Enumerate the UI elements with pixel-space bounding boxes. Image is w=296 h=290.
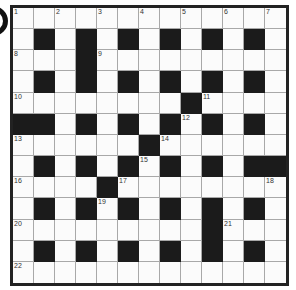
- grid-cell[interactable]: 11: [202, 93, 223, 114]
- grid-cell[interactable]: [13, 71, 34, 92]
- grid-cell[interactable]: [265, 50, 286, 71]
- grid-cell[interactable]: [55, 241, 76, 262]
- grid-cell[interactable]: [13, 29, 34, 50]
- grid-cell[interactable]: 18: [265, 177, 286, 198]
- grid-cell[interactable]: [160, 93, 181, 114]
- grid-cell[interactable]: [55, 93, 76, 114]
- grid-cell[interactable]: [118, 220, 139, 241]
- grid-cell[interactable]: [97, 262, 118, 283]
- grid-cell[interactable]: 3: [97, 8, 118, 29]
- grid-cell[interactable]: [181, 241, 202, 262]
- grid-cell[interactable]: [118, 93, 139, 114]
- grid-cell[interactable]: [223, 29, 244, 50]
- grid-cell[interactable]: [202, 50, 223, 71]
- grid-cell[interactable]: 7: [265, 8, 286, 29]
- grid-cell[interactable]: 4: [139, 8, 160, 29]
- grid-cell[interactable]: [160, 8, 181, 29]
- grid-cell[interactable]: [13, 156, 34, 177]
- grid-cell[interactable]: [34, 262, 55, 283]
- grid-cell[interactable]: [55, 135, 76, 156]
- grid-cell[interactable]: [97, 241, 118, 262]
- grid-cell[interactable]: [118, 262, 139, 283]
- grid-cell[interactable]: [265, 220, 286, 241]
- grid-cell[interactable]: [223, 114, 244, 135]
- grid-cell[interactable]: [223, 135, 244, 156]
- grid-cell[interactable]: [202, 135, 223, 156]
- grid-cell[interactable]: [34, 177, 55, 198]
- grid-cell[interactable]: [160, 50, 181, 71]
- grid-cell[interactable]: 20: [13, 220, 34, 241]
- grid-cell[interactable]: [139, 177, 160, 198]
- grid-cell[interactable]: [34, 135, 55, 156]
- grid-cell[interactable]: [97, 71, 118, 92]
- grid-cell[interactable]: [265, 241, 286, 262]
- grid-cell[interactable]: [181, 50, 202, 71]
- grid-cell[interactable]: [34, 50, 55, 71]
- grid-cell[interactable]: 2: [55, 8, 76, 29]
- grid-cell[interactable]: [244, 8, 265, 29]
- grid-cell[interactable]: 8: [13, 50, 34, 71]
- grid-cell[interactable]: 5: [181, 8, 202, 29]
- grid-cell[interactable]: [139, 241, 160, 262]
- grid-cell[interactable]: [265, 114, 286, 135]
- grid-cell[interactable]: [181, 262, 202, 283]
- grid-cell[interactable]: [265, 71, 286, 92]
- grid-cell[interactable]: [181, 198, 202, 219]
- grid-cell[interactable]: [97, 29, 118, 50]
- grid-cell[interactable]: [265, 198, 286, 219]
- grid-cell[interactable]: [223, 177, 244, 198]
- grid-cell[interactable]: 17: [118, 177, 139, 198]
- grid-cell[interactable]: [55, 220, 76, 241]
- grid-cell[interactable]: [76, 177, 97, 198]
- grid-cell[interactable]: [13, 241, 34, 262]
- grid-cell[interactable]: [244, 262, 265, 283]
- grid-cell[interactable]: [223, 262, 244, 283]
- grid-cell[interactable]: [139, 198, 160, 219]
- grid-cell[interactable]: [97, 93, 118, 114]
- grid-cell[interactable]: [265, 135, 286, 156]
- grid-cell[interactable]: [139, 262, 160, 283]
- grid-cell[interactable]: [55, 71, 76, 92]
- grid-cell[interactable]: [118, 50, 139, 71]
- grid-cell[interactable]: [181, 220, 202, 241]
- grid-cell[interactable]: [223, 50, 244, 71]
- grid-cell[interactable]: [223, 93, 244, 114]
- grid-cell[interactable]: [139, 220, 160, 241]
- grid-cell[interactable]: [55, 29, 76, 50]
- grid-cell[interactable]: [118, 8, 139, 29]
- grid-cell[interactable]: [118, 135, 139, 156]
- grid-cell[interactable]: [55, 114, 76, 135]
- grid-cell[interactable]: 13: [13, 135, 34, 156]
- grid-cell[interactable]: [244, 50, 265, 71]
- grid-cell[interactable]: 6: [223, 8, 244, 29]
- grid-cell[interactable]: [34, 93, 55, 114]
- grid-cell[interactable]: [244, 177, 265, 198]
- grid-cell[interactable]: [139, 29, 160, 50]
- grid-cell[interactable]: [55, 198, 76, 219]
- grid-cell[interactable]: [181, 135, 202, 156]
- grid-cell[interactable]: [202, 177, 223, 198]
- grid-cell[interactable]: 12: [181, 114, 202, 135]
- grid-cell[interactable]: 9: [97, 50, 118, 71]
- grid-cell[interactable]: [139, 50, 160, 71]
- grid-cell[interactable]: [55, 177, 76, 198]
- grid-cell[interactable]: [181, 29, 202, 50]
- grid-cell[interactable]: [76, 93, 97, 114]
- grid-cell[interactable]: [76, 262, 97, 283]
- grid-cell[interactable]: [223, 156, 244, 177]
- grid-cell[interactable]: [223, 198, 244, 219]
- grid-cell[interactable]: [76, 8, 97, 29]
- grid-cell[interactable]: 19: [97, 198, 118, 219]
- grid-cell[interactable]: [13, 198, 34, 219]
- grid-cell[interactable]: [97, 220, 118, 241]
- grid-cell[interactable]: [244, 93, 265, 114]
- grid-cell[interactable]: [244, 135, 265, 156]
- grid-cell[interactable]: [97, 114, 118, 135]
- grid-cell[interactable]: 22: [13, 262, 34, 283]
- grid-cell[interactable]: 10: [13, 93, 34, 114]
- grid-cell[interactable]: [76, 135, 97, 156]
- grid-cell[interactable]: [181, 156, 202, 177]
- grid-cell[interactable]: [55, 262, 76, 283]
- grid-cell[interactable]: [265, 93, 286, 114]
- grid-cell[interactable]: [202, 262, 223, 283]
